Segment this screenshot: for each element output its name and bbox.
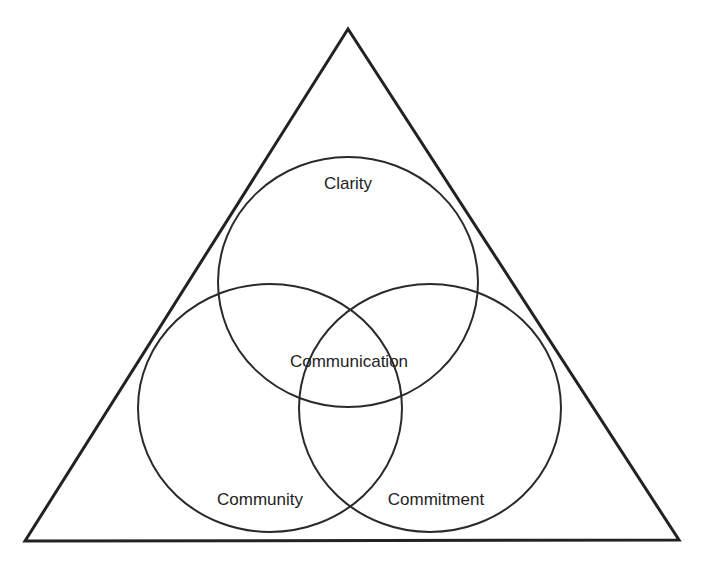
- label-community: Community: [217, 490, 303, 509]
- outer-triangle: [25, 29, 679, 541]
- label-commitment: Commitment: [388, 490, 485, 509]
- venn-triangle-diagram: Clarity Communication Community Commitme…: [0, 0, 702, 569]
- label-clarity: Clarity: [324, 174, 373, 193]
- label-communication: Communication: [290, 352, 408, 371]
